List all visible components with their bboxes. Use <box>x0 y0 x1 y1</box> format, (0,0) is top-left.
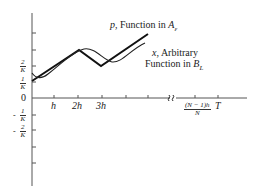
x-text2: Function in <box>145 58 193 69</box>
x-curve-label-line1: x, Arbitrary <box>152 48 198 58</box>
y-neg-sign-1: - <box>13 111 16 121</box>
x-label-3h: 3h <box>96 101 106 111</box>
p-text: , Function in <box>115 19 168 30</box>
x-axis <box>32 95 247 98</box>
den: N <box>184 110 211 117</box>
x-label-2h: 2h <box>72 101 82 111</box>
den: K <box>20 132 26 139</box>
x-label-T: T <box>215 101 221 111</box>
den: K <box>20 116 26 123</box>
p-function-curve <box>32 34 148 81</box>
x-label-h: h <box>51 101 56 111</box>
x-sub: L <box>199 64 203 72</box>
axis-break-icon <box>168 95 174 101</box>
den: K <box>20 84 26 91</box>
p-sub: ε <box>174 25 177 33</box>
y-neg-sign-2: - <box>13 127 16 137</box>
y-label-1-over-K: 1K <box>20 76 26 91</box>
y-label-neg-1-over-K: 1K <box>20 108 26 123</box>
x-text: , Arbitrary <box>156 47 198 58</box>
diagram: p, Function in Aε x, Arbitrary Function … <box>0 0 260 190</box>
y-axis <box>32 13 36 186</box>
x-label-n-minus-1-h-over-n: (N − 1)hN <box>184 102 211 117</box>
y-label-neg-2-over-K: 2K <box>20 124 26 139</box>
p-curve-label: p, Function in Aε <box>110 20 177 34</box>
den: K <box>20 67 26 74</box>
x-curve-label-line2: Function in BL <box>145 59 203 73</box>
y-label-zero: 0 <box>21 93 26 103</box>
y-label-2-over-K: 2K <box>20 59 26 74</box>
